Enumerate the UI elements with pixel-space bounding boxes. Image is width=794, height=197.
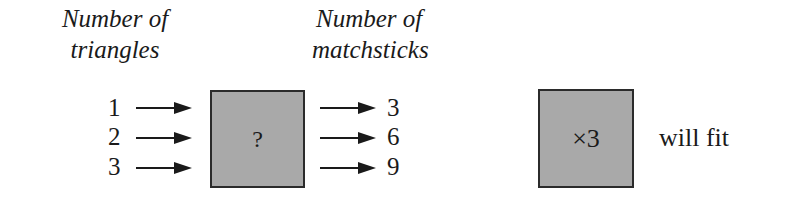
input-heading: Number of triangles [40, 3, 190, 65]
input-heading-line-1: Number of [40, 3, 190, 34]
arrow-icon [320, 162, 376, 174]
output-value: 3 [387, 95, 400, 120]
input-arrows [134, 100, 194, 180]
input-value: 1 [108, 95, 121, 120]
arrow-icon [320, 132, 376, 144]
output-value: 6 [387, 124, 400, 149]
answer-box: ×3 [538, 89, 634, 188]
output-value: 9 [387, 154, 400, 179]
answer-text: will fit [659, 123, 729, 153]
arrow-icon [136, 162, 192, 174]
function-box: ? [210, 90, 305, 188]
input-heading-line-2: triangles [40, 34, 190, 65]
arrow-icon [320, 102, 376, 114]
answer-box-label: ×3 [572, 124, 600, 154]
output-heading-line-1: Number of [312, 3, 502, 34]
output-heading-line-2: matchsticks [312, 34, 502, 65]
arrow-icon [136, 102, 192, 114]
output-arrows [318, 100, 378, 180]
function-box-label: ? [252, 126, 263, 153]
arrow-icon [136, 132, 192, 144]
input-value: 3 [108, 154, 121, 179]
input-value: 2 [108, 124, 121, 149]
output-heading: Number of matchsticks [312, 3, 502, 65]
